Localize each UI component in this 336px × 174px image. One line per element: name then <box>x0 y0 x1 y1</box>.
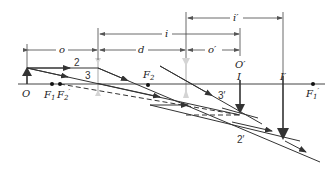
two-lens-ray-diagram: o d o′ i i′ <box>0 0 336 174</box>
focal-point-F2 <box>146 83 150 87</box>
label-o-prime: o′ <box>208 44 217 55</box>
label-I-prime: I′ <box>279 71 287 82</box>
focal-point-F1-prime <box>311 82 315 86</box>
image-arrow-I <box>235 80 245 114</box>
lens-2 <box>182 58 190 98</box>
image-arrow-I-prime <box>277 76 289 140</box>
label-ray-2: 2 <box>74 57 80 68</box>
label-F1: F1 <box>43 89 55 102</box>
label-ray-3: 3 <box>85 70 91 81</box>
label-F1-prime: F1′ <box>305 87 319 101</box>
label-O-prime: O′ <box>235 59 246 70</box>
label-F2-prime: F2′ <box>56 88 70 102</box>
focal-point-F2-prime <box>58 82 62 86</box>
label-I: I <box>236 71 242 82</box>
label-ray-2-prime: 2′ <box>237 134 245 145</box>
ray-dashed-construction <box>60 84 240 115</box>
label-d: d <box>138 44 144 55</box>
label-ray-3-prime: 3′ <box>218 90 226 101</box>
object-arrow <box>22 67 32 84</box>
label-F2: F2 <box>142 69 155 82</box>
label-i: i <box>165 28 168 39</box>
label-o: o <box>59 44 65 55</box>
label-object-O: O <box>22 88 30 99</box>
ray-2 <box>27 68 320 162</box>
label-i-prime: i′ <box>233 12 239 23</box>
focal-point-F1 <box>50 82 54 86</box>
